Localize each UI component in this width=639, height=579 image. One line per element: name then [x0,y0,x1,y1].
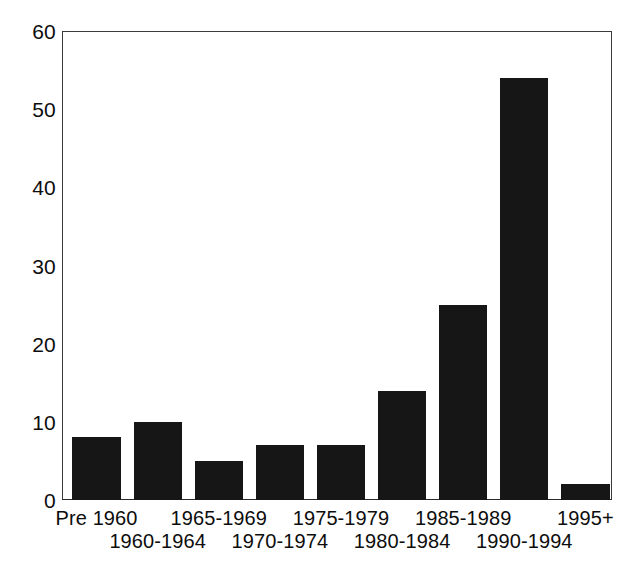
x-axis-tick-label: 1970-1974 [210,531,350,551]
x-axis-tick-label: 1990-1994 [454,531,594,551]
x-axis-tick-label: 1985-1989 [393,508,533,528]
x-axis-tick-label: 1995+ [515,508,639,528]
x-axis-tick-label: Pre 1960 [27,508,167,528]
x-axis-tick-label: 1965-1969 [149,508,289,528]
x-axis: Pre 19601960-19641965-19691970-19741975-… [0,0,639,579]
x-axis-tick-label: 1980-1984 [332,531,472,551]
x-axis-tick-label: 1960-1964 [88,531,228,551]
bar-chart: 0102030405060 Pre 19601960-19641965-1969… [0,0,639,579]
x-axis-tick-label: 1975-1979 [271,508,411,528]
